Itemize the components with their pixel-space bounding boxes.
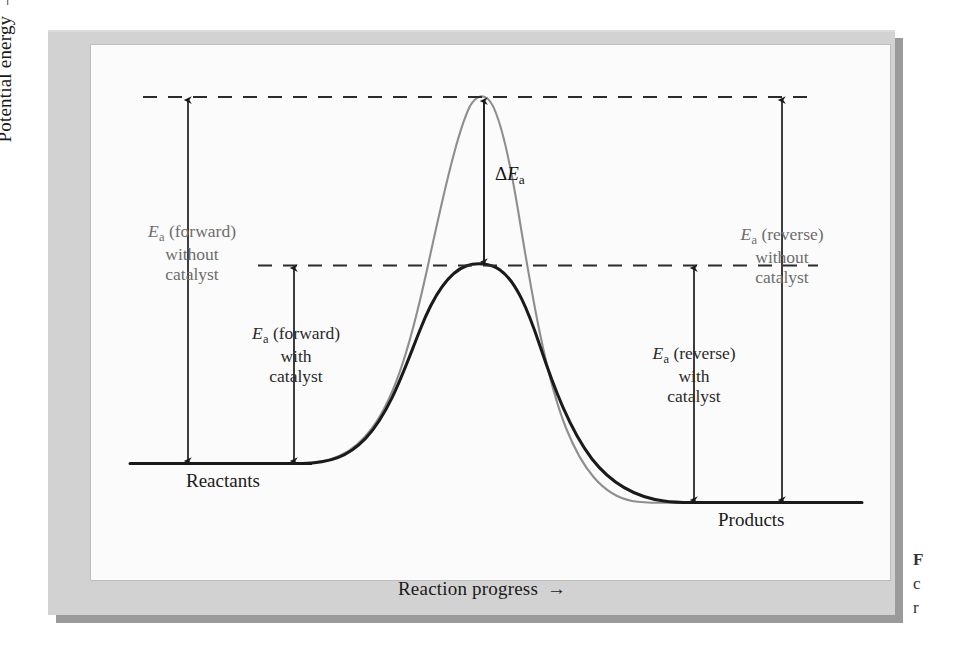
label-ea-reverse-with-catalyst: Ea (reverse) with catalyst — [620, 343, 768, 407]
ea-subscript: a — [751, 233, 757, 247]
ea-subscript: a — [159, 230, 165, 244]
ea-direction: (reverse) — [673, 343, 735, 363]
label-delta-ea: ΔEa — [495, 163, 525, 188]
figure-caption-fragment: F c r — [913, 548, 957, 620]
ea-symbol: E — [652, 343, 663, 363]
ea-line2: without — [165, 244, 218, 264]
caption-line-2: c — [913, 574, 921, 593]
ea-line3: catalyst — [269, 366, 322, 386]
ea-line2: without — [755, 247, 808, 267]
ea-direction: (forward) — [169, 221, 236, 241]
delta-ea-symbol: E — [507, 163, 519, 184]
label-products: Products — [718, 509, 785, 531]
reactants-text: Reactants — [186, 470, 260, 491]
products-text: Products — [718, 509, 785, 530]
ea-symbol: E — [740, 224, 751, 244]
ea-subscript: a — [263, 332, 269, 346]
ea-line3: catalyst — [755, 267, 808, 287]
ea-direction: (reverse) — [761, 224, 823, 244]
ea-symbol: E — [252, 323, 263, 343]
delta-symbol: Δ — [495, 163, 507, 184]
ea-direction: (forward) — [273, 323, 340, 343]
label-ea-forward-with-catalyst: Ea (forward) with catalyst — [222, 323, 370, 387]
delta-ea-subscript: a — [519, 172, 525, 187]
curve-without-catalyst — [130, 96, 862, 503]
ea-symbol: E — [148, 221, 159, 241]
figure-root: Potential energy→ Reaction progress→ — [0, 0, 957, 654]
ea-line3: catalyst — [667, 386, 720, 406]
label-reactants: Reactants — [186, 470, 260, 492]
caption-line-1: F — [913, 550, 923, 569]
caption-line-3: r — [913, 598, 919, 617]
label-ea-reverse-without-catalyst: Ea (reverse) without catalyst — [708, 224, 856, 288]
ea-line2: with — [280, 346, 311, 366]
ea-line2: with — [678, 366, 709, 386]
ea-line3: catalyst — [165, 264, 218, 284]
energy-profile-chart — [0, 0, 957, 654]
ea-subscript: a — [663, 352, 669, 366]
label-ea-forward-without-catalyst: Ea (forward) without catalyst — [118, 221, 266, 285]
